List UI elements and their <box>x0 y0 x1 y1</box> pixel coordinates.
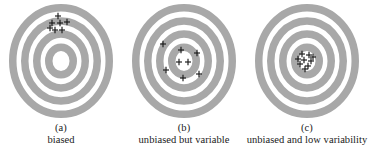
caption-label-a: biased <box>0 134 122 146</box>
caption-letter-c: (c) <box>238 122 368 134</box>
caption-label-b: unbiased but variable <box>117 134 251 146</box>
panel-b: (b) unbiased but variable <box>123 0 245 159</box>
target-rings-b <box>123 0 245 122</box>
bullseye-hole <box>55 54 67 67</box>
caption-letter-a: (a) <box>0 122 122 134</box>
target-rings-a <box>0 0 122 122</box>
caption-b: (b) unbiased but variable <box>117 122 251 146</box>
panel-a: (a) biased <box>0 0 122 159</box>
caption-c: (c) unbiased and low variability <box>238 122 368 146</box>
target-b <box>123 0 245 122</box>
caption-a: (a) biased <box>0 122 122 146</box>
caption-letter-b: (b) <box>117 122 251 134</box>
target-c <box>246 0 368 122</box>
target-a <box>0 0 122 122</box>
panel-c: (c) unbiased and low variability <box>246 0 368 159</box>
figure-bias-variability: (a) biased (b) unbiased but variable (c)… <box>0 0 368 159</box>
target-rings-c <box>246 0 368 122</box>
caption-label-c: unbiased and low variability <box>238 134 368 146</box>
